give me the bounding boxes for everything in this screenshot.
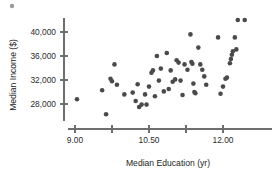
data-point [130, 90, 135, 95]
corner-artifact [10, 4, 14, 8]
data-points [75, 18, 247, 117]
data-point [164, 51, 169, 56]
data-point [242, 18, 247, 23]
data-point [225, 75, 230, 80]
data-point [155, 54, 160, 59]
data-point [182, 62, 187, 67]
data-point [153, 94, 158, 99]
y-axis-title: Median Income ($) [8, 39, 18, 111]
data-point [104, 112, 109, 117]
y-tick-label: 40,000 [30, 27, 56, 37]
x-tick-label: 9.00 [67, 135, 84, 145]
data-point [112, 62, 117, 67]
data-point [110, 79, 115, 84]
data-point [190, 62, 195, 67]
data-point [143, 92, 148, 97]
data-point [133, 99, 138, 104]
scatter-plot-figure: 28,00032,00036,00040,0009.0010.5012.00 M… [0, 0, 279, 175]
y-tick-label: 36,000 [30, 51, 56, 61]
data-point [218, 92, 223, 97]
data-point [198, 62, 203, 67]
data-point [162, 89, 167, 94]
data-point [229, 57, 234, 62]
data-point [166, 87, 171, 92]
data-point [100, 88, 105, 93]
data-point [147, 84, 152, 89]
x-tick-label: 10.50 [139, 135, 160, 145]
data-point [159, 66, 164, 71]
data-point [176, 60, 181, 65]
y-tick-label: 28,000 [30, 99, 56, 109]
data-point [216, 35, 221, 40]
y-tick-label: 32,000 [30, 75, 56, 85]
data-point [228, 61, 233, 66]
corner-dot [10, 4, 14, 8]
data-point [157, 78, 162, 83]
data-point [168, 68, 173, 73]
data-point [234, 47, 239, 52]
tick-labels: 28,00032,00036,00040,0009.0010.5012.00 [30, 27, 233, 145]
data-point [204, 83, 209, 88]
data-point [178, 78, 183, 83]
data-point [173, 77, 178, 82]
x-tick-label: 12.00 [213, 135, 234, 145]
data-point [185, 68, 190, 73]
data-point [236, 18, 241, 23]
data-point [196, 45, 201, 50]
data-point [233, 35, 238, 40]
x-axis-title: Median Education (yr) [126, 158, 210, 168]
data-point [221, 84, 226, 89]
data-point [115, 83, 120, 88]
data-point [188, 32, 193, 37]
plot-canvas: 28,00032,00036,00040,0009.0010.5012.00 M… [0, 0, 279, 175]
data-point [135, 82, 140, 87]
data-point [191, 81, 196, 86]
data-point [193, 91, 198, 96]
data-point [151, 68, 156, 73]
data-point [144, 102, 149, 107]
data-point [122, 92, 127, 97]
data-point [202, 74, 207, 79]
data-point [139, 102, 144, 107]
data-point [200, 68, 205, 73]
axes [64, 18, 272, 129]
data-point [180, 93, 185, 98]
data-point [75, 97, 80, 102]
